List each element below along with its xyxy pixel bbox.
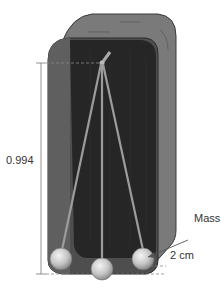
- bob-center: [91, 258, 113, 280]
- box-left-panel: [48, 38, 70, 274]
- mass-label: Mass: [194, 212, 220, 224]
- bob-left: [50, 248, 72, 270]
- bob-right: [132, 248, 154, 270]
- offset-label: 2 cm: [170, 249, 194, 261]
- length-label: 0.994: [6, 154, 34, 166]
